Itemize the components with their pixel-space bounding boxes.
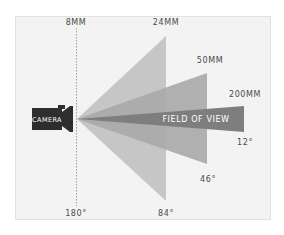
angle-12: 12° (237, 138, 253, 147)
angle-46: 46° (200, 175, 216, 184)
field-of-view-label: FIELD OF VIEW (162, 115, 229, 124)
angle-84: 84° (158, 209, 174, 218)
label-24mm: 24MM (153, 18, 179, 27)
angle-180: 180° (65, 209, 87, 218)
label-8mm: 8MM (66, 18, 87, 27)
camera-label: CAMERA (32, 116, 62, 124)
label-50mm: 50MM (197, 56, 223, 65)
label-200mm: 200MM (229, 90, 261, 99)
field-of-view-diagram: CAMERA FIELD OF VIEW 8MM 24MM 50MM 200MM… (0, 0, 284, 235)
